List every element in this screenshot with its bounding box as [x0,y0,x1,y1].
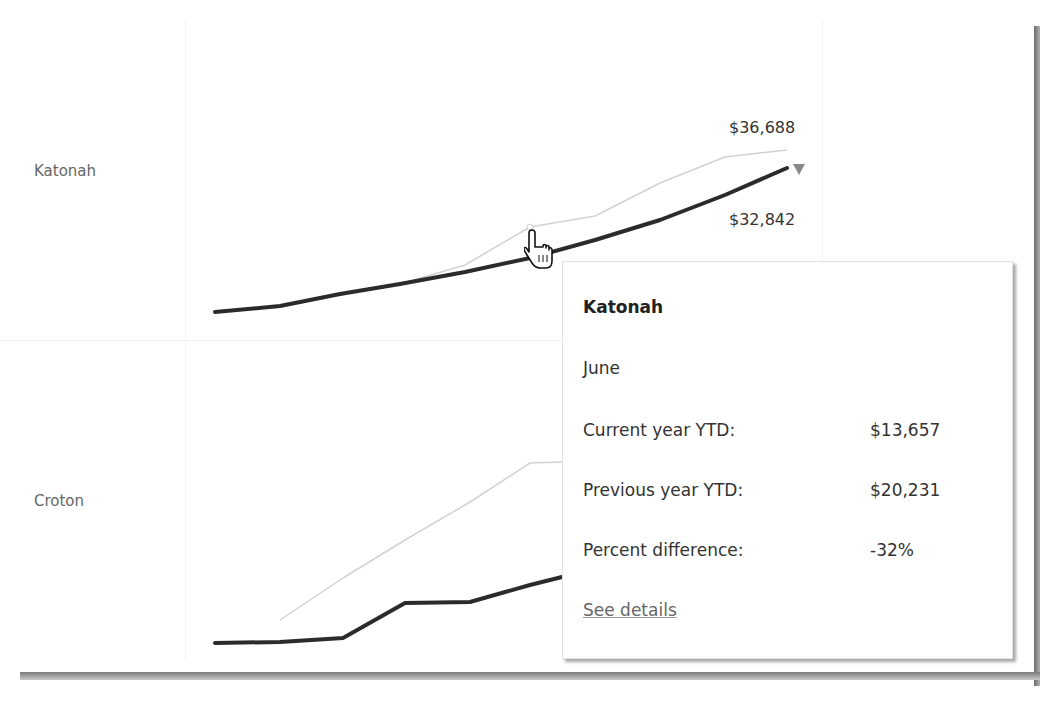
down-triangle-icon [793,164,805,175]
tooltip-label: Current year YTD: [583,420,735,440]
croton-previous-line[interactable] [280,462,562,620]
tooltip-label: Percent difference: [583,540,743,560]
tooltip-value: $13,657 [870,420,940,440]
hand-pointer-cursor-icon [524,228,554,272]
tooltip-value: -32% [870,540,914,560]
previous-end-label: $36,688 [729,118,795,137]
tooltip-value: $20,231 [870,480,940,500]
tooltip-title: Katonah [583,297,663,317]
tooltip: Katonah June Current year YTD: $13,657 P… [562,261,1013,659]
croton-current-line[interactable] [215,577,562,643]
see-details-link[interactable]: See details [583,600,677,620]
tooltip-label: Previous year YTD: [583,480,743,500]
tooltip-month: June [583,358,620,378]
current-end-label: $32,842 [729,210,795,229]
